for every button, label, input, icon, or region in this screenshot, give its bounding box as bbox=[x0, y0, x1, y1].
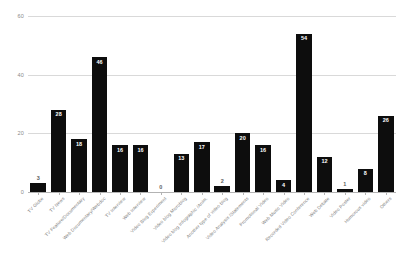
bar-slot[interactable]: 16 bbox=[130, 16, 150, 192]
bar-value-label: 26 bbox=[376, 118, 396, 124]
bar-value-label: 0 bbox=[151, 185, 171, 191]
bar-slot[interactable]: 4 bbox=[273, 16, 293, 192]
plot-area: 0204060 328184616160131722016454121826 bbox=[28, 16, 396, 192]
bar-value-label: 18 bbox=[69, 142, 89, 148]
x-tick bbox=[79, 193, 80, 195]
bar-value-label: 17 bbox=[192, 145, 212, 151]
bar-value-label: 1 bbox=[335, 182, 355, 188]
x-tick bbox=[38, 193, 39, 195]
x-tick bbox=[202, 193, 203, 195]
x-tick bbox=[324, 193, 325, 195]
bar[interactable] bbox=[30, 183, 46, 192]
x-tick bbox=[386, 193, 387, 195]
x-tick bbox=[59, 193, 60, 195]
x-tick bbox=[365, 193, 366, 195]
x-axis-category-label: TV Globe bbox=[27, 196, 45, 214]
x-tick bbox=[140, 193, 141, 195]
bar-value-label: 54 bbox=[294, 36, 314, 42]
bar-value-label: 2 bbox=[212, 179, 232, 185]
x-axis-category-label: Recorded Video Conference bbox=[264, 196, 310, 242]
bar-chart: 0204060 328184616160131722016454121826 T… bbox=[0, 0, 408, 264]
bar-value-label: 16 bbox=[253, 148, 273, 154]
bar[interactable] bbox=[51, 110, 67, 192]
y-tick-label: 60 bbox=[17, 13, 24, 19]
bar-slot[interactable]: 12 bbox=[314, 16, 334, 192]
x-axis-category-label: TV Feature/Documentary bbox=[44, 196, 86, 238]
x-tick bbox=[120, 193, 121, 195]
bar-value-label: 28 bbox=[48, 112, 68, 118]
bar-value-label: 46 bbox=[89, 60, 109, 66]
bar-slot[interactable]: 17 bbox=[192, 16, 212, 192]
bar-slot[interactable]: 20 bbox=[232, 16, 252, 192]
bar-slot[interactable]: 8 bbox=[355, 16, 375, 192]
y-tick-label: 40 bbox=[17, 72, 24, 78]
bar-value-label: 16 bbox=[130, 148, 150, 154]
x-tick bbox=[181, 193, 182, 195]
bar-slot[interactable]: 16 bbox=[110, 16, 130, 192]
x-axis-category-label: Web Documentary/Webdoc bbox=[61, 196, 106, 241]
y-tick-label: 20 bbox=[17, 130, 24, 136]
bar-slot[interactable]: 0 bbox=[151, 16, 171, 192]
bar-slot[interactable]: 46 bbox=[89, 16, 109, 192]
x-axis-labels: TV GlobeTV NewsTV Feature/DocumentaryWeb… bbox=[28, 193, 396, 264]
bar[interactable] bbox=[92, 57, 108, 192]
bar[interactable] bbox=[378, 116, 394, 192]
bar-slot[interactable]: 16 bbox=[253, 16, 273, 192]
bar-slot[interactable]: 1 bbox=[335, 16, 355, 192]
x-tick bbox=[243, 193, 244, 195]
bar-slot[interactable]: 28 bbox=[48, 16, 68, 192]
bar-slot[interactable]: 13 bbox=[171, 16, 191, 192]
x-tick bbox=[345, 193, 346, 195]
bars-container: 328184616160131722016454121826 bbox=[28, 16, 396, 192]
bar-value-label: 16 bbox=[110, 148, 130, 154]
bar[interactable] bbox=[235, 133, 251, 192]
bar-value-label: 12 bbox=[314, 159, 334, 165]
y-tick-label: 0 bbox=[21, 189, 24, 195]
x-axis-category-label: Another type of video blog bbox=[186, 196, 229, 239]
x-axis-category-label: Video Blog Experiment bbox=[129, 196, 167, 234]
bar-value-label: 4 bbox=[273, 183, 293, 189]
bar-slot[interactable]: 18 bbox=[69, 16, 89, 192]
bar-value-label: 13 bbox=[171, 156, 191, 162]
bar-slot[interactable]: 3 bbox=[28, 16, 48, 192]
x-axis-category-label: TV News bbox=[48, 196, 65, 213]
bar-value-label: 8 bbox=[355, 171, 375, 177]
x-tick bbox=[161, 193, 162, 195]
bar-slot[interactable]: 2 bbox=[212, 16, 232, 192]
x-tick bbox=[304, 193, 305, 195]
x-tick bbox=[284, 193, 285, 195]
bar-value-label: 3 bbox=[28, 176, 48, 182]
x-tick bbox=[263, 193, 264, 195]
bar[interactable] bbox=[296, 34, 312, 192]
x-tick bbox=[222, 193, 223, 195]
bar-slot[interactable]: 54 bbox=[294, 16, 314, 192]
x-tick bbox=[100, 193, 101, 195]
bar-value-label: 20 bbox=[232, 136, 252, 142]
x-axis-category-label: Others bbox=[379, 196, 393, 210]
bar-slot[interactable]: 26 bbox=[376, 16, 396, 192]
